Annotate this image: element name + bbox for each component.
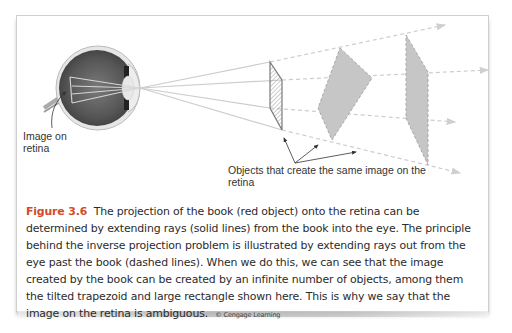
dashed-rays: [270, 25, 488, 173]
solid-rays: [140, 62, 282, 130]
copyright-credit: © Cengage Learning: [215, 311, 280, 319]
objects-leader-arrows: [284, 138, 356, 163]
figure-number: Figure 3.6: [26, 205, 87, 218]
figure-caption: Figure 3.6 The projection of the book (r…: [26, 203, 481, 324]
tilted-trapezoid-object: [318, 48, 372, 140]
large-rectangle-object: [406, 35, 428, 165]
retina-image-label: Image on retina: [23, 130, 83, 154]
caption-text: The projection of the book (red object) …: [26, 205, 471, 320]
book-object: [270, 62, 282, 130]
objects-label: Objects that create the same image on th…: [228, 164, 428, 188]
